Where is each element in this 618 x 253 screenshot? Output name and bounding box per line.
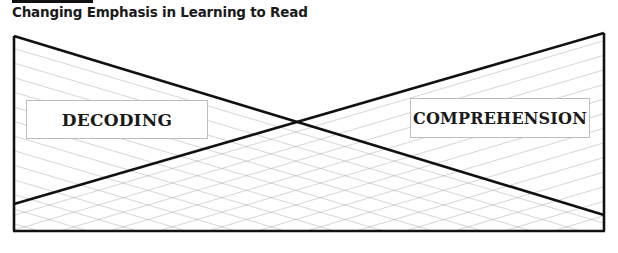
decoding-label: DECODING xyxy=(26,100,208,139)
comprehension-label: COMPREHENSION xyxy=(410,98,590,138)
